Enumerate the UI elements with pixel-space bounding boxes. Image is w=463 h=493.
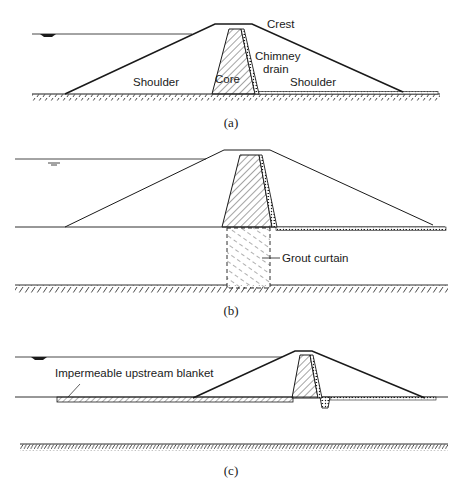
label-core: Core [215, 73, 240, 85]
label-impermeable-upstream-blanket: Impermeable upstream blanket [55, 367, 214, 379]
label-grout-curtain: Grout curtain [282, 252, 348, 264]
dam-cross-sections-diagram: Crest Chimney drain Shoulder Core Should… [0, 0, 463, 493]
blanket-leader [68, 384, 80, 397]
label-crest: Crest [267, 18, 295, 30]
filter-blanket-c [330, 397, 436, 400]
label-chimney-drain-1: Chimney [255, 50, 301, 62]
caption-c: (c) [224, 463, 238, 478]
impermeable-upstream-blanket [57, 397, 293, 402]
panel-b: Grout curtain (b) [15, 150, 448, 318]
panel-a: Crest Chimney drain Shoulder Core Should… [32, 18, 440, 130]
caption-b: (b) [223, 303, 238, 318]
label-chimney-drain-2: drain [263, 63, 289, 75]
water-level-b [15, 159, 206, 165]
label-shoulder-downstream: Shoulder [290, 76, 336, 88]
water-symbol-icon [31, 357, 47, 360]
cutoff-trench-c [320, 397, 330, 408]
caption-a: (a) [224, 115, 238, 130]
filter-blanket-b [276, 227, 446, 231]
foundation-ground-a [32, 94, 440, 101]
label-shoulder-upstream: Shoulder [133, 76, 179, 88]
bedrock-ground-c [20, 444, 448, 451]
water-symbol-icon [40, 34, 56, 37]
panel-c: Impermeable upstream blanket (c) [15, 351, 448, 478]
bedrock-ground-b [15, 285, 448, 293]
water-level-c [15, 357, 282, 360]
water-level-a [32, 34, 192, 37]
filter-blanket-a [258, 92, 438, 95]
